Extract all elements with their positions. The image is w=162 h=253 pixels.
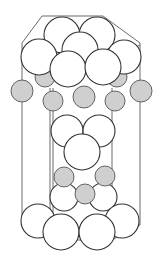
large-atom [64, 134, 100, 170]
small-atom [75, 184, 95, 204]
small-atom [11, 80, 33, 102]
small-atom [95, 166, 115, 186]
large-atom [50, 51, 86, 87]
small-atom [105, 91, 125, 111]
large-atom [43, 214, 79, 250]
large-atom [85, 49, 121, 85]
large-atom [79, 214, 115, 250]
bottom-layer-atoms [21, 204, 139, 250]
small-atom [43, 91, 63, 111]
small-atom [130, 80, 152, 102]
small-atom [73, 86, 95, 108]
middle-large-atoms [51, 115, 115, 170]
middle-small-atoms [11, 80, 152, 111]
crystal-structure-diagram: Hexagonal unit cell (close-packed struct… [0, 0, 162, 253]
unit-cell-figure [0, 0, 162, 253]
small-atom [54, 167, 74, 187]
